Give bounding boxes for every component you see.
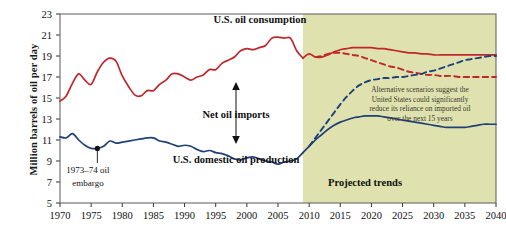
chart-canvas: 57911131517192123 1970197519801985199019… (0, 0, 506, 229)
y-tick-label: 13 (42, 114, 53, 125)
x-tick-label: 1985 (143, 210, 164, 221)
x-tick-label: 2005 (268, 210, 289, 221)
x-tick-label: 1980 (112, 210, 133, 221)
y-tick-label: 17 (42, 72, 53, 83)
embargo-callout-group (95, 146, 100, 163)
embargo-label-line1: 1973–74 oil (66, 165, 110, 175)
y-tick-label: 7 (47, 177, 52, 188)
x-tick-label: 2035 (454, 210, 475, 221)
x-tick-label: 1975 (81, 210, 102, 221)
y-tick-label: 9 (47, 156, 52, 167)
projected-trends-label: Projected trends (328, 177, 402, 188)
embargo-label-line2: embargo (72, 178, 104, 188)
scenario-note-line: over the next 15 years (387, 114, 452, 123)
series-line-0 (60, 37, 303, 101)
x-tick-label: 1995 (205, 210, 226, 221)
y-tick-label: 21 (42, 30, 53, 41)
x-axis-ticks: 1970197519801985199019952000200520102015… (50, 203, 506, 221)
series-label-production: U.S. domestic oil production (173, 154, 300, 165)
y-tick-label: 5 (47, 198, 52, 209)
x-tick-label: 1970 (50, 210, 71, 221)
x-tick-label: 2000 (236, 210, 257, 221)
net-imports-arrow-head-down (232, 136, 240, 144)
x-tick-label: 2015 (330, 210, 351, 221)
series-label-consumption: U.S. oil consumption (214, 14, 307, 25)
x-tick-label: 2010 (299, 210, 320, 221)
scenario-note-line: Alternative scenarios suggest the (371, 85, 469, 94)
x-tick-label: 2030 (423, 210, 444, 221)
x-tick-label: 2020 (361, 210, 382, 221)
scenario-note-line: reduce its reliance on imported oil (369, 104, 470, 113)
y-tick-label: 23 (42, 9, 53, 20)
y-tick-label: 11 (42, 135, 52, 146)
net-imports-arrow-head-up (232, 82, 240, 90)
y-tick-label: 19 (42, 51, 53, 62)
x-tick-label: 2040 (486, 210, 506, 221)
x-tick-label: 1990 (174, 210, 195, 221)
y-axis-ticks: 57911131517192123 (42, 9, 61, 209)
net-imports-label: Net oil imports (202, 109, 269, 120)
oil-chart-figure: Million barrels of oil per day 579111315… (0, 0, 506, 229)
y-tick-label: 15 (42, 93, 53, 104)
scenario-note-line: United States could significantly (372, 95, 469, 104)
x-tick-label: 2025 (392, 210, 413, 221)
